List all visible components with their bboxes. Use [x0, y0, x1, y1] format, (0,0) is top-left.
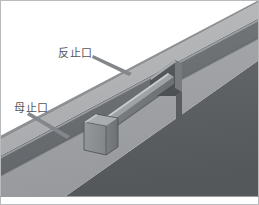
tongue-end-front-facet	[84, 122, 106, 155]
notch-right-wall	[175, 60, 182, 92]
label-fan-zhi-kou: 反止口	[58, 47, 93, 60]
technical-diagram-figure: 反止口 母止口	[0, 0, 259, 205]
notch-step-edge	[176, 92, 182, 124]
label-mu-zhi-kou: 母止口	[14, 102, 49, 115]
isometric-joint-illustration: 反止口 母止口	[0, 0, 259, 205]
